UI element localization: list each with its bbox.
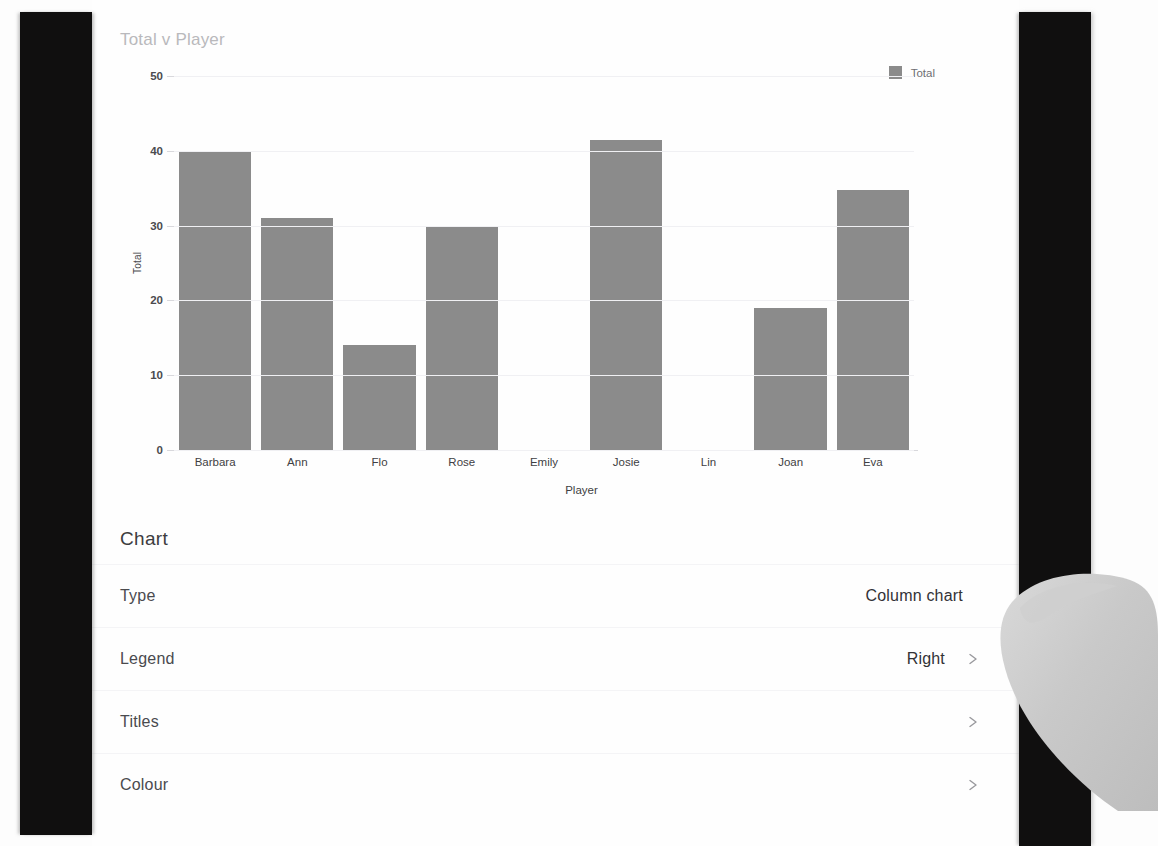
settings-row-legend[interactable]: LegendRight xyxy=(92,628,1019,690)
settings-row-label: Titles xyxy=(120,713,159,731)
gridline xyxy=(174,226,914,227)
chart-card: Total v Player Total Total BarbaraAnnFlo… xyxy=(92,0,1019,512)
settings-row-value: Column chart xyxy=(865,587,963,605)
chart-settings-panel: Chart TypeColumn chartLegendRightTitlesC… xyxy=(92,512,1019,816)
chevron-right-icon[interactable] xyxy=(968,717,979,728)
y-axis-tick-mark xyxy=(167,300,174,301)
bar-slot: Barbara xyxy=(174,76,256,450)
settings-row-titles[interactable]: Titles xyxy=(92,691,1019,753)
y-axis-tick: 40 xyxy=(150,145,163,157)
x-axis-tick-ann: Ann xyxy=(256,456,338,468)
gridline xyxy=(174,151,914,152)
y-axis-tick: 10 xyxy=(150,369,163,381)
gridline xyxy=(174,300,914,301)
bar-slot: Joan xyxy=(750,76,832,450)
gridline xyxy=(174,76,914,77)
x-axis-tick-rose: Rose xyxy=(421,456,503,468)
right-edge-band xyxy=(1019,12,1091,846)
settings-header: Chart xyxy=(92,512,1019,564)
x-axis-tick-josie: Josie xyxy=(585,456,667,468)
settings-row-label: Type xyxy=(120,587,156,605)
gridline xyxy=(174,375,914,376)
x-axis-tick-lin: Lin xyxy=(667,456,749,468)
settings-row-label: Legend xyxy=(120,650,175,668)
left-edge-band xyxy=(20,12,92,835)
y-axis-tick-mark xyxy=(167,151,174,152)
legend-label-total: Total xyxy=(911,67,935,79)
bar[interactable] xyxy=(261,218,333,450)
settings-row-colour[interactable]: Colour xyxy=(92,754,1019,816)
y-axis-tick-mark xyxy=(167,226,174,227)
bar-slot: Ann xyxy=(256,76,338,450)
y-axis-tick-mark xyxy=(167,450,174,451)
bar[interactable] xyxy=(754,308,826,450)
y-axis-tick: 30 xyxy=(150,220,163,232)
y-axis-tick-mark xyxy=(167,375,174,376)
x-axis-tick-joan: Joan xyxy=(750,456,832,468)
bar[interactable] xyxy=(426,226,498,450)
app-page: Total v Player Total Total BarbaraAnnFlo… xyxy=(92,0,1019,846)
bar[interactable] xyxy=(590,140,662,450)
chart-title: Total v Player xyxy=(120,30,225,50)
x-axis-tick-flo: Flo xyxy=(338,456,420,468)
settings-header-label: Chart xyxy=(120,528,168,550)
chevron-right-icon[interactable] xyxy=(968,780,979,791)
bar-slot: Eva xyxy=(832,76,914,450)
bar-slot: Flo xyxy=(338,76,420,450)
settings-row-type[interactable]: TypeColumn chart xyxy=(92,565,1019,627)
gridline xyxy=(174,450,914,451)
bar[interactable] xyxy=(837,190,909,450)
y-axis-tick: 20 xyxy=(150,294,163,306)
y-axis-tick-mark xyxy=(167,76,174,77)
x-axis-tick-emily: Emily xyxy=(503,456,585,468)
y-axis-tick: 0 xyxy=(157,444,163,456)
x-axis-title: Player xyxy=(92,484,1019,496)
bar-slot: Rose xyxy=(421,76,503,450)
bar-slot: Emily xyxy=(503,76,585,450)
bar[interactable] xyxy=(343,345,415,450)
settings-row-value: Right xyxy=(907,650,945,668)
x-axis-tick-eva: Eva xyxy=(832,456,914,468)
y-axis-tick: 50 xyxy=(150,70,163,82)
bar-group: BarbaraAnnFloRoseEmilyJosieLinJoanEva xyxy=(174,76,914,450)
chevron-right-icon[interactable] xyxy=(968,654,979,665)
settings-row-label: Colour xyxy=(120,776,168,794)
plot-area: BarbaraAnnFloRoseEmilyJosieLinJoanEva 01… xyxy=(174,76,914,450)
y-axis-title: Total xyxy=(132,252,143,274)
x-axis-tick-barbara: Barbara xyxy=(174,456,256,468)
bar-slot: Lin xyxy=(667,76,749,450)
bar-slot: Josie xyxy=(585,76,667,450)
